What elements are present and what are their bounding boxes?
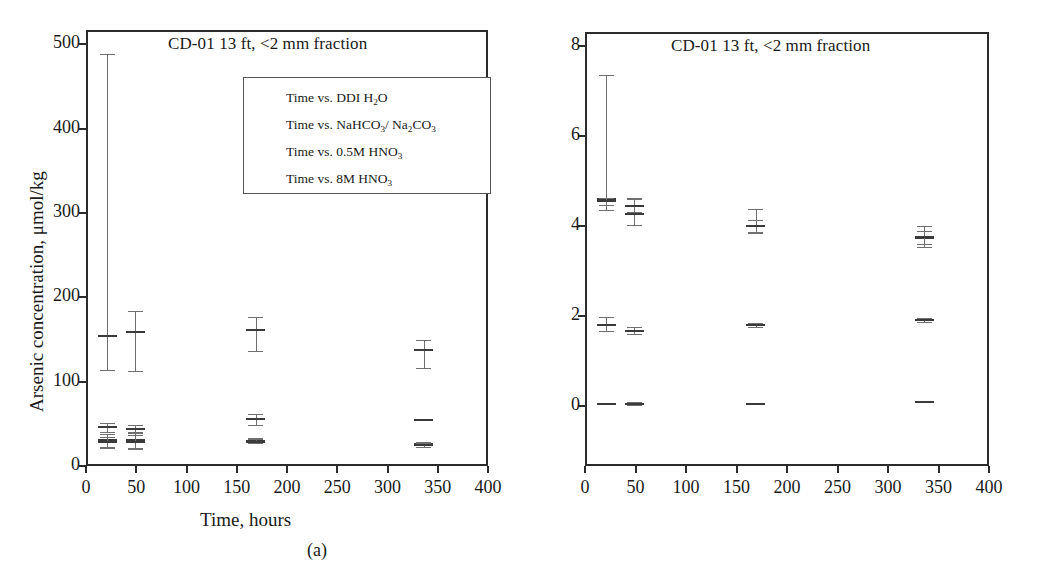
error-bar-cap [128, 435, 143, 436]
x-tickmark [837, 466, 839, 473]
x-tickmark [487, 466, 489, 473]
error-bar-cap [917, 244, 932, 245]
data-point-marker [98, 426, 117, 428]
data-marks-b [587, 34, 987, 464]
subfigure-caption-a: (a) [307, 540, 327, 561]
data-point-marker [414, 419, 433, 421]
error-bar-cap [100, 437, 115, 438]
data-point-marker [625, 330, 644, 332]
error-bar-cap [917, 231, 932, 232]
x-tickmark [786, 466, 788, 473]
error-bar-line [606, 75, 607, 210]
error-bar-cap [627, 225, 642, 226]
x-tick-label: 150 [709, 477, 765, 498]
y-tickmark [79, 381, 86, 383]
error-bar-line [135, 311, 136, 371]
error-bar-cap [100, 434, 115, 435]
x-tick-label: 0 [557, 477, 613, 498]
x-tick-label: 100 [658, 477, 714, 498]
y-tick-label: 300 [28, 201, 80, 222]
x-tick-label: 50 [608, 477, 664, 498]
error-bar-cap [599, 210, 614, 211]
data-point-marker [746, 324, 765, 326]
x-tick-label: 350 [410, 477, 466, 498]
plot-title-a: CD-01 13 ft, <2 mm fraction [168, 34, 367, 54]
x-tickmark [736, 466, 738, 473]
legend-item-0-5m-hno3: Time vs. 0.5M HNO3 [244, 139, 490, 166]
panel-a-arsenic: CD-01 13 ft, <2 mm fraction Time vs. DDI… [0, 0, 520, 581]
y-tick-label: 400 [28, 117, 80, 138]
y-tickmark [79, 296, 86, 298]
error-bar-cap [100, 423, 115, 424]
data-point-marker [246, 418, 265, 420]
data-point-marker [625, 213, 644, 215]
error-bar-cap [748, 209, 763, 210]
x-tickmark [887, 466, 889, 473]
x-tickmark [85, 466, 87, 473]
error-bar-line [256, 317, 257, 352]
x-tick-label: 200 [259, 477, 315, 498]
data-point-marker [597, 403, 616, 405]
error-bar-cap [748, 233, 763, 234]
error-bar-cap [917, 322, 932, 323]
data-point-marker [597, 324, 616, 326]
x-tick-label: 100 [159, 477, 215, 498]
x-tickmark [938, 466, 940, 473]
error-bar-line [424, 340, 425, 369]
error-bar-cap [100, 432, 115, 433]
error-bar-cap [627, 212, 642, 213]
y-tickmark [79, 43, 86, 45]
error-bar-cap [248, 351, 263, 352]
x-tickmark [236, 466, 238, 473]
error-bar-cap [128, 371, 143, 372]
legend-item-ddi-h2o: Time vs. DDI H2O [244, 85, 490, 112]
data-point-marker [126, 428, 145, 430]
error-bar-cap [100, 370, 115, 371]
data-point-marker [597, 200, 616, 202]
error-bar-cap [248, 425, 263, 426]
error-bar-cap [627, 405, 642, 406]
error-bar-cap [128, 448, 143, 449]
data-point-marker [915, 319, 934, 321]
x-tick-label: 400 [460, 477, 516, 498]
error-bar-cap [748, 232, 763, 233]
error-bar-cap [128, 425, 143, 426]
y-tick-label: 8 [528, 34, 580, 55]
error-bar-cap [627, 327, 642, 328]
x-tickmark [387, 466, 389, 473]
y-tick-label: 6 [528, 124, 580, 145]
x-tick-label: 50 [108, 477, 164, 498]
legend-item-nahco3-na2co3: Time vs. NaHCO3/ Na2CO3 [244, 112, 490, 139]
plot-frame-b [585, 32, 989, 466]
data-point-marker [126, 441, 145, 443]
y-tickmark [79, 128, 86, 130]
error-bar-cap [599, 331, 614, 332]
data-point-marker [625, 403, 644, 405]
data-point-marker [246, 441, 265, 443]
legend-box: Time vs. DDI H2O Time vs. NaHCO3/ Na2CO3… [243, 77, 491, 194]
error-bar-cap [248, 317, 263, 318]
x-tickmark [286, 466, 288, 473]
error-bar-line [107, 54, 108, 370]
error-bar-cap [627, 334, 642, 335]
error-bar-cap [599, 75, 614, 76]
x-tickmark [685, 466, 687, 473]
error-bar-cap [599, 205, 614, 206]
y-tickmark [79, 212, 86, 214]
data-point-marker [126, 331, 145, 333]
x-tickmark [336, 466, 338, 473]
data-point-marker [625, 205, 644, 207]
y-tick-label: 100 [28, 370, 80, 391]
data-point-marker [746, 403, 765, 405]
error-bar-cap [128, 311, 143, 312]
error-bar-cap [748, 220, 763, 221]
error-bar-cap [416, 340, 431, 341]
data-point-marker [915, 401, 934, 403]
error-bar-cap [748, 327, 763, 328]
error-bar-cap [100, 54, 115, 55]
error-bar-cap [917, 226, 932, 227]
x-tick-label: 200 [759, 477, 815, 498]
x-tickmark [988, 466, 990, 473]
y-tick-label: 0 [528, 394, 580, 415]
plot-title-b: CD-01 13 ft, <2 mm fraction [671, 36, 870, 56]
